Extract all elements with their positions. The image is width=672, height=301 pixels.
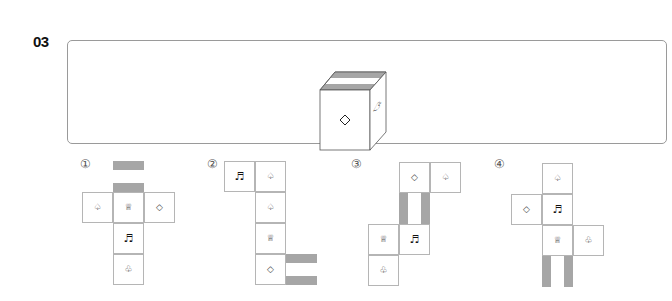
- net-cell: ♬: [113, 223, 144, 254]
- net-cell: ♕: [113, 192, 144, 223]
- net-cell-stripes: [286, 254, 317, 285]
- net-cell: ♤: [542, 163, 573, 194]
- net-cell: ♕: [368, 224, 399, 255]
- net-cell: ♕: [542, 225, 573, 256]
- net-cell: ◇: [255, 254, 286, 285]
- net-cell: ♬: [542, 194, 573, 225]
- option-2-label[interactable]: ②: [207, 157, 218, 171]
- spade-icon: ♤: [553, 174, 561, 183]
- net-cell: ♧: [573, 225, 604, 256]
- club-icon: ♧: [124, 265, 132, 274]
- music-note-icon: ♬: [553, 204, 563, 215]
- diamond-icon: ◇: [156, 203, 163, 212]
- diamond-icon: ◇: [411, 173, 418, 182]
- option-4-label[interactable]: ④: [494, 157, 505, 171]
- net-cell: ♤: [255, 192, 286, 223]
- net-cell: ♤: [82, 192, 113, 223]
- music-note-icon: ♬: [124, 233, 134, 244]
- option-1-label[interactable]: ①: [80, 157, 91, 171]
- spade-icon: ♤: [441, 173, 449, 182]
- net-cell: ◇: [144, 192, 175, 223]
- music-note-icon: ♬: [235, 171, 245, 182]
- net-cell: ♤: [255, 161, 286, 192]
- crown-icon: ♕: [124, 203, 132, 212]
- question-number: 03: [33, 33, 49, 50]
- net-cell: ♧: [368, 255, 399, 286]
- spade-icon: ♤: [266, 203, 274, 212]
- net-cell: ◇: [511, 194, 542, 225]
- net-cell-stripes: [542, 256, 573, 287]
- net-cell: ♧: [113, 254, 144, 285]
- club-icon: ♧: [379, 266, 387, 275]
- club-icon: ♧: [584, 236, 592, 245]
- option-3-label[interactable]: ③: [351, 157, 362, 171]
- diamond-icon: ◇: [267, 265, 274, 274]
- net-cell-stripes: [113, 161, 144, 192]
- net-cell: ◇: [399, 162, 430, 193]
- crown-icon: ♕: [266, 234, 274, 243]
- net-cell: ♬: [399, 224, 430, 255]
- net-cell: ♕: [255, 223, 286, 254]
- music-note-icon: ♬: [410, 234, 420, 245]
- spade-icon: ♤: [93, 203, 101, 212]
- net-cell: ♤: [430, 162, 461, 193]
- net-cell-stripes: [399, 193, 430, 224]
- net-cell: ♬: [224, 161, 255, 192]
- spade-icon: ♤: [266, 172, 274, 181]
- crown-icon: ♕: [379, 235, 387, 244]
- crown-icon: ♕: [553, 236, 561, 245]
- diamond-icon: ◇: [523, 205, 530, 214]
- cube-figure: ♤: [318, 66, 388, 160]
